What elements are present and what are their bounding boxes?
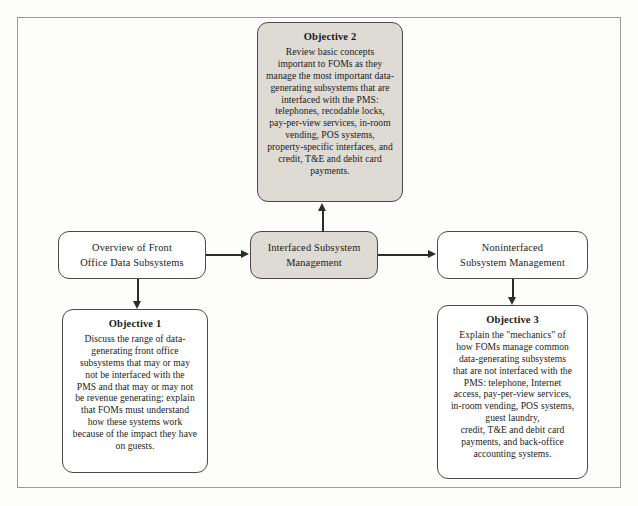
arrow-up-icon [318, 203, 326, 211]
edge-overview-to-objective1-line [137, 279, 139, 303]
text-line: generating front office [73, 345, 197, 357]
text-line: Subsystem Management [460, 255, 565, 270]
text-line: that are not interfaced with the [451, 365, 574, 377]
node-objective-3-body: Explain the "mechanics" of how FOMs mana… [444, 329, 581, 460]
text-line: because of the impact they have [73, 428, 197, 440]
node-objective-3[interactable]: Objective 3 Explain the "mechanics" of h… [437, 305, 588, 479]
arrow-right-icon [428, 250, 436, 258]
node-noninterfaced-subsystem-management[interactable]: Noninterfaced Subsystem Management [437, 231, 588, 279]
edge-overview-to-interfaced-line [206, 254, 242, 256]
node-objective-2[interactable]: Objective 2 Review basic concepts import… [257, 22, 403, 202]
text-line: credit, T&E and debit card [266, 153, 394, 165]
text-line: Overview of Front [80, 240, 184, 255]
text-line: Review basic concepts [266, 46, 394, 58]
text-line: data-generating subsystems [451, 353, 574, 365]
text-line: Office Data Subsystems [80, 255, 184, 270]
text-line: PMS: telephone, Internet [451, 377, 574, 389]
text-line: guest laundry, [451, 412, 574, 424]
node-objective-2-body: Review basic concepts important to FOMs … [259, 46, 401, 177]
text-line: Management [268, 255, 361, 270]
node-objective-1[interactable]: Objective 1 Discuss the range of data- g… [62, 309, 208, 473]
text-line: payments, and back-office [451, 436, 574, 448]
text-line: interfaced with the PMS: [266, 94, 394, 106]
text-line: that FOMs must understand [73, 404, 197, 416]
text-line: in-room vending, POS systems, [451, 400, 574, 412]
edge-interfaced-to-objective2-line [322, 210, 324, 232]
text-line: Explain the "mechanics" of [451, 329, 574, 341]
text-line: vending, POS systems, [266, 129, 394, 141]
text-line: telephones, recodable locks, [266, 105, 394, 117]
page-canvas: Objective 2 Review basic concepts import… [0, 0, 638, 506]
text-line: Discuss the range of data- [73, 333, 197, 345]
text-line: access, pay-per-view services, [451, 388, 574, 400]
node-objective-2-title: Objective 2 [304, 30, 357, 43]
text-line: Interfaced Subsystem [268, 240, 361, 255]
text-line: subsystems that may or may [73, 357, 197, 369]
text-line: on guests. [73, 440, 197, 452]
text-line: generating subsystems that are [266, 82, 394, 94]
text-line: Noninterfaced [460, 240, 565, 255]
node-objective-3-title: Objective 3 [486, 313, 539, 326]
text-line: not be interfaced with the [73, 369, 197, 381]
text-line: important to FOMs as they [266, 58, 394, 70]
arrow-right-icon [241, 250, 249, 258]
text-line: property-specific interfaces, and [266, 141, 394, 153]
text-line: payments. [266, 165, 394, 177]
text-line: credit, T&E and debit card [451, 424, 574, 436]
arrow-down-icon [508, 297, 516, 305]
node-overview-of-front-office-data-subsystems[interactable]: Overview of Front Office Data Subsystems [58, 231, 206, 279]
edge-interfaced-to-noninterfaced-line [378, 254, 429, 256]
text-line: PMS and that may or may not [73, 381, 197, 393]
node-objective-1-body: Discuss the range of data- generating fr… [66, 333, 204, 452]
node-overview-body: Overview of Front Office Data Subsystems [72, 240, 192, 270]
text-line: pay-per-view services, in-room [266, 117, 394, 129]
text-line: how these systems work [73, 416, 197, 428]
text-line: how FOMs manage common [451, 341, 574, 353]
node-noninterfaced-body: Noninterfaced Subsystem Management [452, 240, 573, 270]
node-objective-1-title: Objective 1 [109, 317, 162, 330]
text-line: accounting systems. [451, 448, 574, 460]
edge-noninterfaced-to-objective3-line [512, 279, 514, 299]
node-interfaced-subsystem-management[interactable]: Interfaced Subsystem Management [250, 231, 378, 279]
node-interfaced-body: Interfaced Subsystem Management [260, 240, 369, 270]
arrow-down-icon [133, 301, 141, 309]
text-line: manage the most important data- [266, 70, 394, 82]
text-line: be revenue generating; explain [73, 392, 197, 404]
